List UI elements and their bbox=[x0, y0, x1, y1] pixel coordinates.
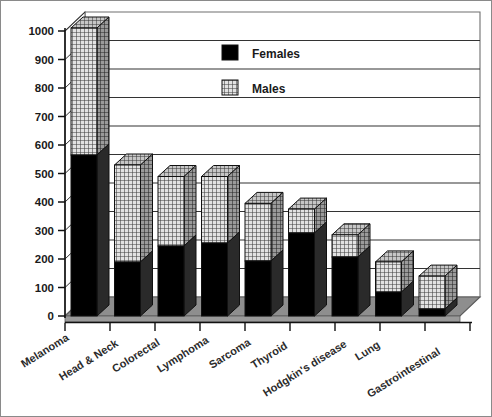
bar-lung bbox=[376, 251, 414, 316]
y-tick-label-1000: 1000 bbox=[28, 25, 54, 37]
y-tick-label-100: 100 bbox=[35, 282, 54, 294]
bar-sarcoma bbox=[245, 192, 283, 316]
bar-hodgkins-disease bbox=[332, 224, 370, 316]
legend-label-males: Males bbox=[252, 82, 286, 96]
legend-swatch-males bbox=[222, 80, 238, 95]
y-tick-label-300: 300 bbox=[35, 225, 54, 237]
y-tick-label-200: 200 bbox=[35, 253, 54, 265]
y-tick-label-700: 700 bbox=[35, 111, 54, 123]
bar-melanoma bbox=[71, 17, 109, 316]
y-tick-label-600: 600 bbox=[35, 139, 54, 151]
chart-figure: 0 100 200 300 400 500 600 700 800 900 10… bbox=[0, 0, 492, 417]
y-tick-label-900: 900 bbox=[35, 54, 54, 66]
plot-floor-skirt bbox=[65, 316, 460, 322]
bar-lymphoma bbox=[202, 166, 240, 317]
bar-head-and-neck bbox=[115, 154, 153, 316]
y-tick-label-500: 500 bbox=[35, 168, 54, 180]
y-tick-label-400: 400 bbox=[35, 196, 54, 208]
bar-thyroid bbox=[289, 198, 327, 316]
bar-colorectal bbox=[158, 166, 196, 317]
y-tick-label-800: 800 bbox=[35, 82, 54, 94]
stacked-bar-chart: 0 100 200 300 400 500 600 700 800 900 10… bbox=[0, 0, 492, 417]
bar-gastrointestinal bbox=[419, 265, 457, 316]
legend-label-females: Females bbox=[252, 47, 300, 61]
y-tick-label-0: 0 bbox=[48, 310, 54, 322]
legend-swatch-females bbox=[222, 45, 238, 60]
